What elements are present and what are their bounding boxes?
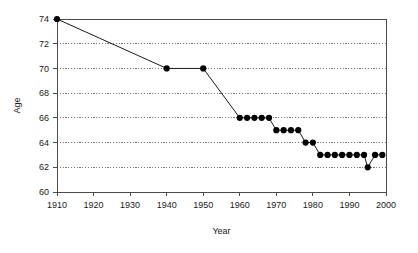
y-tick-label-66: 66 <box>39 113 49 123</box>
x-tick-label-1980: 1980 <box>303 200 323 210</box>
chart-container: 6062646668707274 19101920193019401950196… <box>0 0 418 253</box>
data-point <box>164 65 170 71</box>
x-tick-label-1940: 1940 <box>157 200 177 210</box>
x-tick-label-1950: 1950 <box>193 200 213 210</box>
data-point <box>339 152 345 158</box>
data-point <box>361 152 367 158</box>
data-point <box>354 152 360 158</box>
data-point <box>317 152 323 158</box>
data-point <box>295 127 301 133</box>
y-tick-label-60: 60 <box>39 187 49 197</box>
data-point <box>324 152 330 158</box>
x-tick-label-1990: 1990 <box>339 200 359 210</box>
x-tick-label-1970: 1970 <box>266 200 286 210</box>
data-point <box>281 127 287 133</box>
x-axis-title: Year <box>212 226 230 236</box>
x-tick-label-1920: 1920 <box>84 200 104 210</box>
data-point <box>273 127 279 133</box>
data-point <box>54 16 60 22</box>
data-point <box>200 65 206 71</box>
data-point <box>346 152 352 158</box>
data-point <box>244 115 250 121</box>
x-tick-label-1960: 1960 <box>230 200 250 210</box>
y-tick-label-62: 62 <box>39 162 49 172</box>
data-point <box>251 115 257 121</box>
y-tick-label-64: 64 <box>39 138 49 148</box>
data-point <box>266 115 272 121</box>
y-tick-label-70: 70 <box>39 64 49 74</box>
age-vs-year-line-chart: 6062646668707274 19101920193019401950196… <box>0 0 418 253</box>
y-axis-title: Age <box>12 97 22 113</box>
x-tick-label-1910: 1910 <box>47 200 67 210</box>
x-tick-label-1930: 1930 <box>120 200 140 210</box>
data-point <box>302 139 308 145</box>
data-point <box>365 164 371 170</box>
data-point <box>237 115 243 121</box>
chart-background <box>0 0 418 253</box>
data-point <box>310 139 316 145</box>
data-point <box>332 152 338 158</box>
y-tick-label-74: 74 <box>39 14 49 24</box>
data-point <box>288 127 294 133</box>
y-tick-label-68: 68 <box>39 88 49 98</box>
x-tick-label-2000: 2000 <box>376 200 396 210</box>
data-point <box>379 152 385 158</box>
data-point <box>372 152 378 158</box>
data-point <box>259 115 265 121</box>
y-tick-label-72: 72 <box>39 39 49 49</box>
